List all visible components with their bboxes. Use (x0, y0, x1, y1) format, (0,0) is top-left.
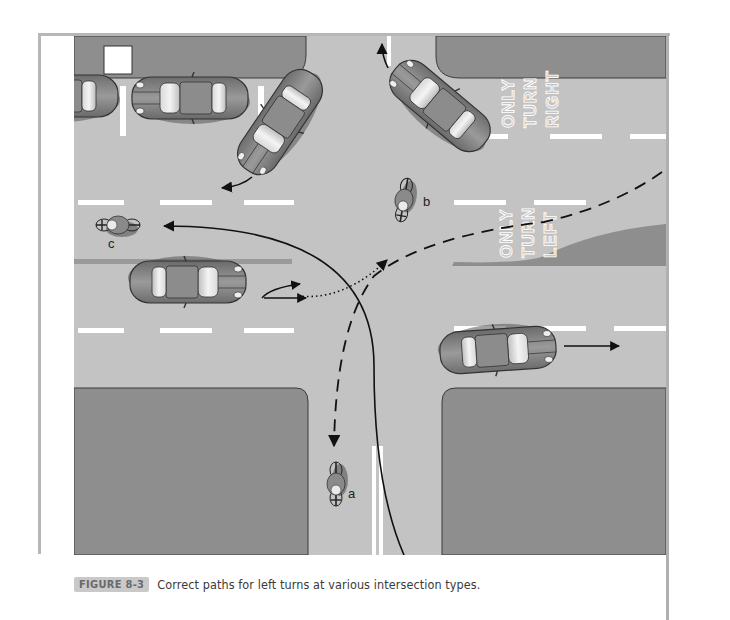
car-top-left-westbound (132, 72, 250, 124)
lane-sign-right-line1: ONLY (499, 78, 518, 128)
lane-sign-right-line2: TURN (521, 77, 540, 128)
cyclist-a-label: a (348, 486, 356, 501)
intersection-diagram: ONLY TURN RIGHT ONLY TURN LEFT a b c (74, 36, 666, 555)
lane-sign-right-line3: RIGHT (543, 70, 562, 128)
cyclist-c-label: c (108, 236, 115, 251)
figure-caption: FIGURE 8-3 Correct paths for left turns … (74, 577, 480, 592)
page-border-left (38, 34, 41, 554)
car-eastbound-turning-left (128, 256, 246, 308)
block-bottom-left (74, 388, 308, 555)
figure-label: FIGURE 8-3 (74, 577, 149, 592)
lane-sign-left-line1: ONLY (497, 208, 516, 258)
block-bottom-right (442, 388, 666, 555)
figure-caption-text: Correct paths for left turns at various … (157, 577, 480, 592)
white-square-marker (104, 46, 132, 74)
lane-sign-left-line3: LEFT (541, 212, 560, 259)
lane-sign-left-line2: TURN (519, 207, 538, 258)
cyclist-b-label: b (423, 194, 430, 209)
page-border-right (666, 34, 669, 620)
